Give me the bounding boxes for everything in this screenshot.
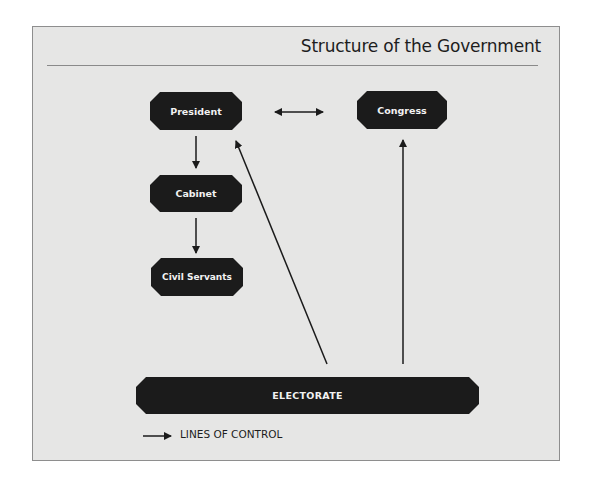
node-congress[interactable]: Congress xyxy=(357,91,447,129)
legend-label: LINES OF CONTROL xyxy=(180,428,282,440)
node-electorate[interactable]: ELECTORATE xyxy=(136,377,479,414)
diagram-title: Structure of the Government xyxy=(301,36,541,56)
node-cabinet[interactable]: Cabinet xyxy=(150,175,242,212)
node-president[interactable]: President xyxy=(150,92,242,130)
title-divider xyxy=(47,65,538,66)
node-civil-servants[interactable]: Civil Servants xyxy=(151,258,243,296)
